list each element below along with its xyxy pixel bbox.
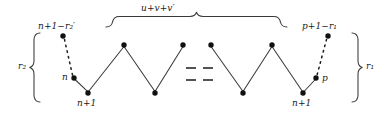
zigzag-lattice-diagram: n+1−r₂′ p+1−r₁ u+v+v′ r₂ r₁ n n+1 p n+1 (0, 0, 392, 122)
left-bottom-node-label: n+1 (77, 99, 96, 108)
top-left-node-label: n+1−r₂′ (38, 22, 75, 31)
zigzag-right-segment (211, 47, 303, 92)
top-brace-label: u+v+v′ (141, 4, 175, 13)
right-mid-node (313, 75, 318, 80)
left-mid-node (71, 75, 76, 80)
diagram-canvas (0, 0, 392, 122)
left-edge-n-to-n1 (75, 80, 87, 92)
left-mid-node-label: n (62, 73, 68, 82)
valley-node-1 (152, 90, 157, 95)
peak-node-1 (121, 42, 126, 47)
top-right-outer-node (325, 33, 330, 38)
peak-node-4 (269, 42, 274, 47)
peak-node-3 (208, 42, 213, 47)
top-brace (106, 12, 287, 27)
left-bottom-node (85, 90, 90, 95)
top-right-node-label: p+1−r₁ (302, 22, 337, 31)
zigzag-left-segment (89, 47, 184, 92)
right-bottom-node (300, 90, 305, 95)
valley-node-2 (240, 90, 245, 95)
peak-node-2 (180, 42, 185, 47)
right-brace-label: r₁ (366, 62, 374, 71)
right-mid-node-label: p (322, 74, 328, 83)
right-bottom-node-label: n+1 (292, 99, 311, 108)
right-brace (352, 33, 362, 102)
top-left-outer-node (60, 33, 65, 38)
left-dotted-connector (65, 40, 73, 76)
left-brace (30, 33, 40, 102)
right-dotted-connector (317, 40, 326, 75)
left-brace-label: r₂ (18, 62, 26, 71)
right-edge-n1-to-p (305, 80, 315, 91)
